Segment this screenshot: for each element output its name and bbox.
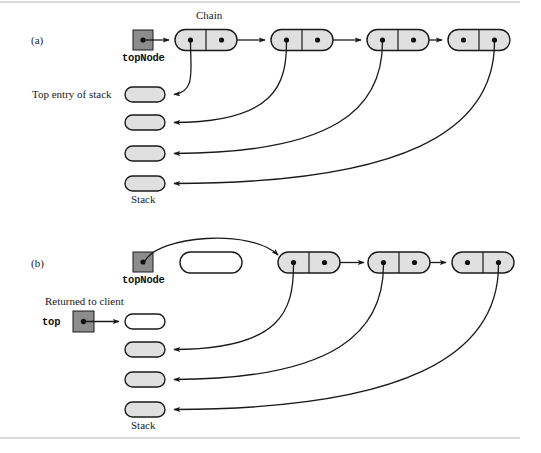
figure-canvas: (a) Chain topNode Top entry of stack Sta… [0, 0, 541, 453]
panel-b-returned-label: Returned to client [45, 296, 124, 307]
panel-b-chain-node-1 [368, 252, 430, 273]
panel-a-chain-node-1 [271, 30, 333, 51]
diagram-svg [0, 0, 541, 453]
panel-a-curve-node3-to-entry3 [174, 42, 495, 184]
panel-b-stack-entry-3 [125, 402, 165, 417]
panel-a-label: (a) [31, 34, 43, 46]
panel-b-stack-entry-1 [125, 342, 165, 357]
panel-b-stack-entry-0 [125, 314, 165, 329]
panel-a-chain-label: Chain [196, 10, 222, 21]
panel-a-stack-entry-1 [125, 115, 165, 130]
panel-b-label: (b) [31, 257, 44, 269]
panel-a-chain-node-2 [367, 30, 429, 51]
panel-b-top-label: top [42, 317, 60, 328]
panel-a-stack-entry-3 [125, 176, 165, 191]
panel-b-curve-node2-to-entry3 [174, 265, 499, 410]
panel-a-chain-node-0 [175, 30, 237, 51]
panel-b-topnode-label: topNode [122, 275, 165, 286]
panel-a-stack-entry-0 [125, 87, 165, 102]
panel-a-curve-node2-to-entry2 [174, 42, 383, 154]
panel-b-curve-node0-to-entry1 [174, 265, 294, 350]
panel-b-stack-label: Stack [131, 420, 155, 431]
panel-b-chain-node-0 [278, 252, 340, 273]
panel-a-chain-node-3 [448, 30, 510, 51]
panel-a-stack-label: Stack [131, 194, 155, 205]
panel-b-curve-node1-to-entry2 [174, 265, 384, 380]
panel-a-stack-entry-2 [125, 146, 165, 161]
panel-b-detached-node [180, 252, 242, 273]
panel-b-stack-entry-2 [125, 372, 165, 387]
panel-a-top-entry-label: Top entry of stack [32, 89, 112, 100]
panel-b-chain-node-2 [452, 252, 514, 273]
panel-a-topnode-label: topNode [122, 53, 165, 64]
